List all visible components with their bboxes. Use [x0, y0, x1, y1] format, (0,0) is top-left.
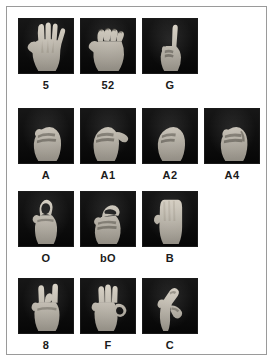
handshape-row-2: A A1	[18, 108, 260, 181]
handshape-grid: 5	[7, 7, 266, 354]
hand-flat-palm-icon	[142, 191, 198, 247]
hand-o-shape-icon	[18, 191, 74, 247]
handshape-cell-G[interactable]: G	[142, 18, 198, 91]
handshape-cell-A1[interactable]: A1	[80, 108, 136, 181]
hand-fist-thumb-tucked-icon	[204, 108, 260, 164]
hand-ok-sign-icon	[80, 278, 136, 334]
hand-open-palm-spread-icon	[18, 18, 74, 74]
hand-flattened-o-icon	[80, 191, 136, 247]
handshape-cell-O[interactable]: O	[18, 191, 74, 264]
hand-middle-finger-bent-icon	[18, 278, 74, 334]
handshape-cell-A2[interactable]: A2	[142, 108, 198, 181]
handshape-label: A2	[163, 169, 178, 181]
handshape-label: A4	[225, 169, 240, 181]
handshape-label: 52	[101, 79, 114, 91]
handshape-cell-F[interactable]: F	[80, 278, 136, 351]
handshape-cell-A4[interactable]: A4	[204, 108, 260, 181]
hand-index-finger-extended-icon	[142, 18, 198, 74]
hand-c-shape-icon	[142, 278, 198, 334]
handshape-label: 5	[43, 79, 50, 91]
handshape-cell-52[interactable]: 52	[80, 18, 136, 91]
handshape-label: O	[42, 252, 51, 264]
hand-fist-thumb-across-icon	[142, 108, 198, 164]
handshape-cell-5[interactable]: 5	[18, 18, 74, 91]
hand-open-palm-bent-fingers-icon	[80, 18, 136, 74]
handshape-label: 8	[43, 339, 50, 351]
handshape-row-1: 5	[18, 18, 198, 91]
handshape-cell-bO[interactable]: bO	[80, 191, 136, 264]
handshape-label: C	[166, 339, 174, 351]
handshape-label: bO	[100, 252, 116, 264]
handshape-label: G	[166, 79, 175, 91]
handshape-cell-8[interactable]: 8	[18, 278, 74, 351]
handshape-cell-C[interactable]: C	[142, 278, 198, 351]
handshape-row-4: 8	[18, 278, 198, 351]
hand-fist-icon	[18, 108, 74, 164]
handshape-chart-frame: 5	[6, 6, 267, 355]
handshape-label: A1	[101, 169, 116, 181]
hand-fist-thumb-out-icon	[80, 108, 136, 164]
handshape-cell-A[interactable]: A	[18, 108, 74, 181]
handshape-label: A	[42, 169, 50, 181]
handshape-row-3: O	[18, 191, 198, 264]
handshape-label: F	[104, 339, 111, 351]
handshape-label: B	[166, 252, 174, 264]
handshape-cell-B[interactable]: B	[142, 191, 198, 264]
